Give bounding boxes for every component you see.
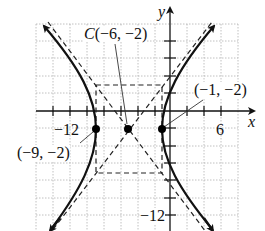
x-tick-label-6: 6 [216, 122, 224, 138]
hyperbola-right-branch-bottom-arrow [204, 218, 213, 231]
center-prefix: C [84, 25, 95, 42]
center-coords: (−6, −2) [95, 25, 148, 42]
right-vertex-label: (−1, −2) [194, 82, 247, 98]
hyperbola-left-branch-bottom-arrow [50, 218, 60, 231]
right-vertex-point [158, 125, 166, 133]
hyperbola-graph: y x C(−6, −2) (−1, −2) (−9, −2) −12 6 −1… [0, 0, 265, 231]
x-axis-label: x [248, 114, 255, 130]
x-tick-label-neg12: −12 [54, 122, 79, 138]
center-point [124, 125, 132, 133]
center-label: C(−6, −2) [84, 26, 147, 42]
y-axis-label: y [158, 4, 165, 20]
y-tick-label-neg12: −12 [140, 208, 165, 224]
left-vertex-label: (−9, −2) [17, 145, 70, 161]
left-vertex-point [92, 125, 100, 133]
